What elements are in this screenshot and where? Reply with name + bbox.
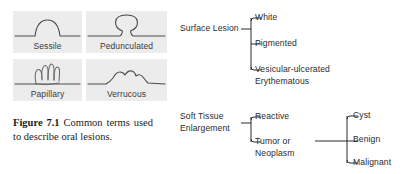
shape-label-verrucous: Verrucous: [86, 88, 167, 100]
pedunculated-icon: [86, 11, 167, 41]
tree-node-tumor-or-neoplasm: Tumor or Neoplasm: [255, 136, 311, 159]
tree-node-cyst: Cyst: [353, 110, 371, 122]
shape-cell-pedunculated: Pedunculated: [86, 11, 167, 53]
shape-cell-papillary: Papillary: [13, 59, 82, 101]
shape-cell-verrucous: Verrucous: [86, 59, 167, 101]
sessile-icon: [13, 11, 82, 41]
classification-tree: Surface Lesion Soft Tissue Enlargement W…: [175, 0, 411, 174]
tree-node-malignant: Malignant: [353, 157, 391, 169]
tree-node-reactive: Reactive: [255, 111, 289, 123]
shape-label-papillary: Papillary: [13, 88, 82, 100]
papillary-icon: [13, 59, 82, 89]
verrucous-icon: [86, 59, 167, 89]
tree-node-benign: Benign: [353, 134, 380, 146]
shape-label-pedunculated: Pedunculated: [86, 40, 167, 52]
tree-node-soft-tissue-enlargement: Soft Tissue Enlargement: [180, 111, 246, 134]
tree-node-surface-lesion: Surface Lesion: [180, 23, 244, 35]
tree-node-white: White: [255, 12, 277, 24]
figure-panel: Sessile Pedunculated Papillary: [0, 0, 175, 174]
shape-label-sessile: Sessile: [13, 40, 82, 52]
tree-node-pigmented: Pigmented: [255, 38, 297, 50]
figure-caption: Figure 7.1 Common terms used to describe…: [13, 116, 153, 144]
figure-caption-number: Figure 7.1: [13, 117, 60, 128]
tree-node-vesicular-ulcerated-erythematous: Vesicular-ulcerated Erythematous: [255, 64, 350, 87]
shape-cell-sessile: Sessile: [13, 11, 82, 53]
